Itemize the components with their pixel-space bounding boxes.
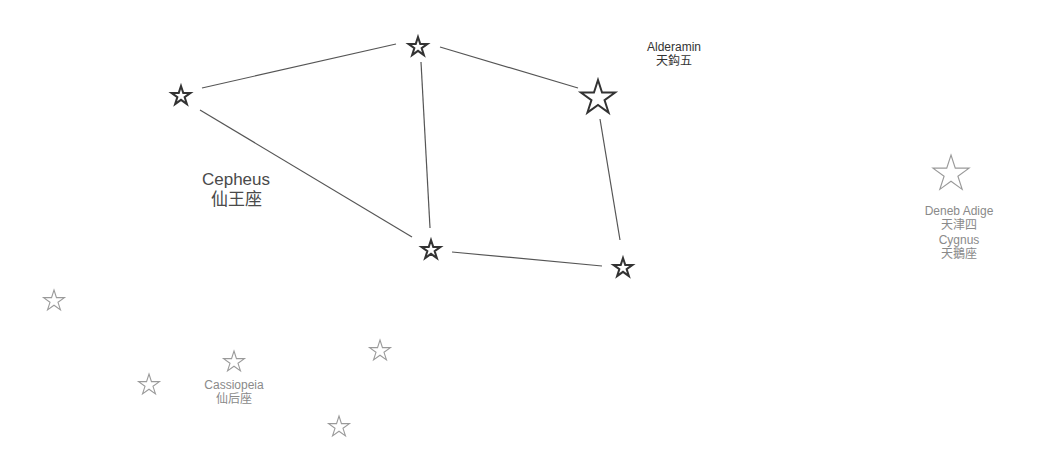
star-icon <box>139 374 160 394</box>
deneb-adige-name-zh: 天津四 <box>925 218 994 232</box>
deneb-adige-star-icon <box>933 155 969 189</box>
cassiopeia-name-en: Cassiopeia <box>204 378 263 392</box>
cygnus-name-zh: 天鵝座 <box>925 247 994 261</box>
star-icon <box>329 416 350 436</box>
star-icon <box>613 258 632 276</box>
cassiopeia-name-zh: 仙后座 <box>204 392 263 406</box>
star-icon <box>370 340 391 360</box>
star-icon <box>224 351 245 371</box>
cepheus-name-en: Cepheus <box>202 170 270 190</box>
alderamin-star-icon <box>581 80 615 113</box>
constellation-line <box>440 47 578 88</box>
cepheus-label: Cepheus 仙王座 <box>202 170 270 211</box>
constellation-line <box>202 44 396 88</box>
alderamin-name-en: Alderamin <box>647 40 701 54</box>
alderamin-name-zh: 天鈎五 <box>647 54 701 68</box>
cygnus-name-en: Cygnus <box>925 233 994 247</box>
cassiopeia-label: Cassiopeia 仙后座 <box>204 378 263 407</box>
star-icon <box>44 290 65 310</box>
deneb-adige-name-en: Deneb Adige <box>925 204 994 218</box>
alderamin-label: Alderamin 天鈎五 <box>647 40 701 69</box>
cepheus-name-zh: 仙王座 <box>202 190 270 210</box>
deneb-adige-label: Deneb Adige 天津四 Cygnus 天鵝座 <box>925 204 994 262</box>
star-icon <box>171 86 190 104</box>
cepheus-lines <box>200 44 620 266</box>
star-icon <box>421 240 440 258</box>
star-icon <box>408 37 427 55</box>
constellation-line <box>452 252 602 266</box>
star-map <box>0 0 1055 458</box>
constellation-line <box>421 62 430 228</box>
constellation-line <box>600 119 620 240</box>
